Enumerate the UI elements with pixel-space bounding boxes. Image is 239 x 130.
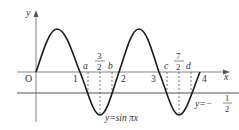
- tick-3: 3: [151, 74, 156, 84]
- svg-text:3: 3: [97, 51, 102, 61]
- svg-text:y=−: y=−: [194, 99, 212, 109]
- origin-label: O: [25, 73, 32, 84]
- svg-text:1: 1: [225, 93, 229, 103]
- svg-text:2: 2: [225, 104, 229, 114]
- x-axis-label: x: [223, 71, 229, 82]
- point-c: c: [164, 61, 169, 71]
- svg-text:2: 2: [176, 62, 181, 72]
- tick-1: 1: [73, 74, 78, 84]
- graph-canvas: y x O 1 2 3 4 a b c d 3 2 7 2 y=sin πx y…: [0, 0, 239, 130]
- point-d: d: [186, 61, 191, 71]
- function-label: y=sin πx: [104, 113, 139, 123]
- tick-2: 2: [121, 74, 126, 84]
- line-label: y=− 1 2: [194, 93, 232, 114]
- fraction-three-halves: 3 2: [95, 51, 105, 72]
- tick-4: 4: [202, 74, 207, 84]
- y-axis-label: y: [25, 7, 31, 18]
- svg-text:7: 7: [176, 51, 181, 61]
- y-axis-arrow-icon: [34, 10, 39, 17]
- point-a: a: [83, 61, 88, 71]
- point-b: b: [108, 61, 113, 71]
- fraction-seven-halves: 7 2: [174, 51, 184, 72]
- svg-text:2: 2: [97, 62, 102, 72]
